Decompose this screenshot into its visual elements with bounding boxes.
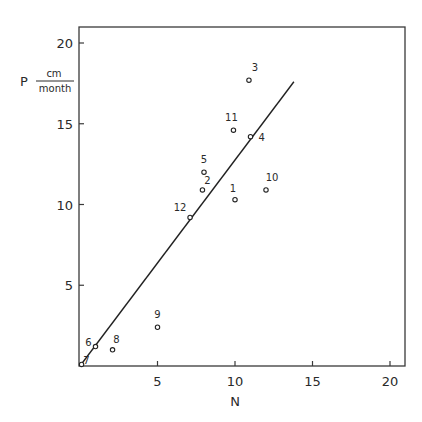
data-point-10: 10 (264, 172, 279, 192)
point-label: 12 (174, 202, 187, 213)
point-marker (188, 215, 192, 219)
data-point-2: 2 (200, 175, 210, 192)
point-label: 11 (225, 112, 238, 123)
regression-line (80, 82, 294, 366)
point-label: 5 (201, 154, 207, 165)
y-tick-label: 5 (65, 278, 73, 293)
data-point-7: 7 (79, 355, 89, 366)
x-tick-label: 10 (227, 374, 244, 389)
x-tick-label: 20 (382, 374, 399, 389)
point-marker (248, 134, 252, 138)
point-marker (264, 188, 268, 192)
plot-border (79, 27, 405, 366)
fit-line (80, 82, 294, 366)
point-label: 6 (85, 337, 91, 348)
y-tick-label: 20 (56, 36, 73, 51)
point-marker (233, 197, 237, 201)
data-point-3: 3 (247, 62, 258, 82)
y-axis-title: P (20, 74, 28, 89)
y-axis-unit-numerator: cm (46, 68, 61, 79)
point-label: 4 (259, 132, 265, 143)
axis-ticks: 51015205101520 (56, 36, 398, 389)
point-label: 9 (154, 309, 160, 320)
scatter-chart: 51015205101520 123456789101112 NPcmmonth (0, 0, 422, 422)
point-label: 2 (204, 175, 210, 186)
point-marker (231, 128, 235, 132)
point-label: 1 (230, 183, 236, 194)
x-axis-title: N (230, 394, 240, 409)
point-marker (93, 344, 97, 348)
data-point-9: 9 (154, 309, 160, 329)
point-marker (110, 348, 114, 352)
point-marker (155, 325, 159, 329)
point-label: 3 (252, 62, 258, 73)
data-point-4: 4 (248, 132, 265, 143)
axis-titles: NPcmmonth (20, 68, 240, 409)
point-marker (247, 78, 251, 82)
x-tick-label: 15 (304, 374, 321, 389)
data-point-12: 12 (174, 202, 193, 219)
data-point-1: 1 (230, 183, 237, 202)
data-point-6: 6 (85, 337, 97, 349)
y-tick-label: 10 (56, 198, 73, 213)
data-points: 123456789101112 (79, 62, 278, 366)
point-label: 8 (113, 334, 119, 345)
y-axis-unit-denominator: month (39, 83, 71, 94)
x-tick-label: 5 (153, 374, 161, 389)
point-marker (202, 170, 206, 174)
data-point-11: 11 (225, 112, 238, 132)
point-label: 10 (266, 172, 279, 183)
point-marker (200, 188, 204, 192)
data-point-8: 8 (110, 334, 119, 352)
y-tick-label: 15 (56, 117, 73, 132)
point-label: 7 (83, 355, 89, 366)
plot-frame (79, 27, 405, 366)
data-point-5: 5 (201, 154, 207, 174)
